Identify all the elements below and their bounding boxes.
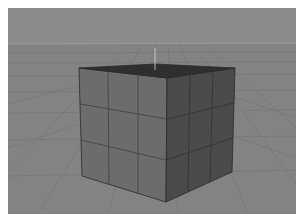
3d-viewport[interactable] [8, 8, 296, 214]
viewport-canvas[interactable] [8, 8, 296, 214]
sky-background [8, 8, 296, 44]
cube-object[interactable] [79, 48, 235, 202]
